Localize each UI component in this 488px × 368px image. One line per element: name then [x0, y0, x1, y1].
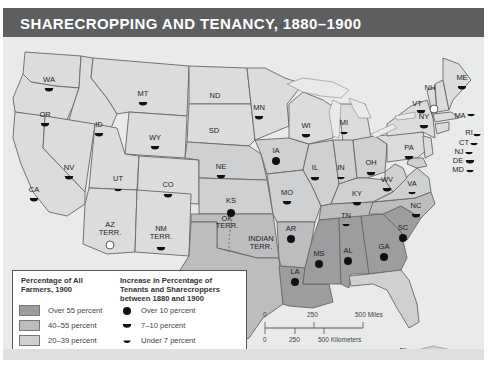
svg-text:OR: OR: [39, 110, 51, 119]
svg-text:GA: GA: [379, 242, 390, 251]
svg-text:TERR.: TERR.: [216, 221, 239, 230]
svg-text:MN: MN: [253, 103, 265, 112]
scale-km-500: 500 Kilometers: [318, 336, 361, 343]
swatch-20-39: [19, 335, 40, 346]
svg-text:OH: OH: [365, 158, 376, 167]
legend: Percentage of All Farmers, 1900 Increase…: [12, 270, 247, 360]
svg-text:MS: MS: [313, 249, 324, 258]
svg-text:NC: NC: [411, 201, 422, 210]
svg-text:ID: ID: [95, 120, 103, 129]
svg-text:UT: UT: [113, 174, 123, 183]
svg-text:KY: KY: [352, 189, 362, 198]
svg-text:ME: ME: [456, 73, 467, 82]
legend-item-under-7: Under 7 percent: [121, 334, 195, 347]
svg-text:TN: TN: [341, 211, 351, 220]
map-figure: SHARECROPPING AND TENANCY, 1880–1900: [3, 8, 484, 360]
svg-text:CA: CA: [29, 185, 39, 194]
svg-text:TERR.: TERR.: [250, 242, 273, 251]
scale-miles-500: 500 Miles: [355, 311, 383, 318]
svg-text:WY: WY: [149, 133, 161, 142]
legend-item-40-55: 40–55 percent: [19, 319, 97, 332]
svg-text:WA: WA: [43, 75, 55, 84]
svg-text:DE: DE: [453, 156, 463, 165]
svg-text:CO: CO: [162, 180, 173, 189]
svg-text:MD: MD: [452, 165, 464, 174]
svg-text:WI: WI: [301, 121, 310, 130]
title-bar: SHARECROPPING AND TENANCY, 1880–1900: [3, 8, 484, 37]
svg-text:NE: NE: [216, 162, 226, 171]
svg-text:NV: NV: [64, 163, 74, 172]
svg-text:SD: SD: [209, 126, 220, 135]
svg-text:RI: RI: [465, 128, 473, 137]
svg-text:WV: WV: [381, 175, 393, 184]
legend-item-over-10: Over 10 percent: [121, 304, 195, 317]
swatch-40-55: [19, 320, 40, 331]
svg-text:ND: ND: [210, 91, 221, 100]
half-circle-small-icon: [121, 335, 133, 347]
svg-text:AL: AL: [343, 246, 352, 255]
svg-text:IN: IN: [337, 163, 345, 172]
svg-text:SC: SC: [398, 223, 409, 232]
svg-text:NJ: NJ: [454, 147, 463, 156]
state-nm: [135, 190, 191, 256]
svg-text:MT: MT: [138, 89, 149, 98]
shading-legend-heading: Percentage of All Farmers, 1900: [21, 276, 83, 294]
svg-text:TERR.: TERR.: [150, 232, 173, 241]
svg-text:IL: IL: [312, 163, 318, 172]
scale-miles-250: 250: [307, 311, 318, 318]
svg-text:MA: MA: [454, 111, 465, 120]
svg-text:AR: AR: [286, 224, 297, 233]
half-circle-large-icon: [121, 320, 133, 332]
svg-text:CT: CT: [459, 138, 469, 147]
legend-item-over-55: Over 55 percent: [19, 304, 102, 317]
legend-item-20-39: 20–39 percent: [19, 334, 97, 347]
swatch-over-55: [19, 305, 40, 316]
symbol-legend-heading: Increase in Percentage of Tenants and Sh…: [120, 276, 220, 303]
bottom-strip: [3, 349, 484, 360]
svg-text:VA: VA: [407, 179, 416, 188]
scale-km-250: 250: [289, 336, 300, 343]
svg-text:MI: MI: [340, 118, 348, 127]
legend-item-7-10: 7–10 percent: [121, 319, 185, 332]
state-nj: [423, 136, 433, 158]
svg-text:LA: LA: [290, 267, 299, 276]
svg-text:IA: IA: [272, 146, 279, 155]
svg-text:KS: KS: [226, 196, 236, 205]
svg-text:PA: PA: [404, 143, 413, 152]
state-oh: [353, 136, 387, 178]
svg-text:NH: NH: [425, 83, 436, 92]
state-sd: [187, 104, 255, 146]
svg-text:VT: VT: [412, 99, 422, 108]
map-title: SHARECROPPING AND TENANCY, 1880–1900: [20, 15, 361, 32]
full-circle-icon: [121, 305, 133, 317]
scale-miles-0: 0: [263, 311, 267, 318]
svg-text:TERR.: TERR.: [99, 228, 122, 237]
svg-text:MO: MO: [281, 188, 293, 197]
scale-km-0: 0: [263, 336, 267, 343]
